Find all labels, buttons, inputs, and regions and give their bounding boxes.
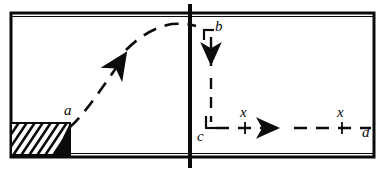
label-point-d: d bbox=[362, 125, 370, 140]
label-point-a: a bbox=[64, 103, 72, 118]
diagram-svg bbox=[0, 0, 387, 177]
label-distance-x-left: x bbox=[240, 105, 247, 120]
label-point-b: b bbox=[215, 19, 223, 34]
label-distance-x-right: x bbox=[337, 105, 344, 120]
label-point-c: c bbox=[197, 129, 204, 144]
corner-bracket-b bbox=[203, 29, 214, 40]
projectile-path bbox=[70, 24, 196, 127]
figure-canvas: a b c d x x bbox=[0, 0, 387, 177]
